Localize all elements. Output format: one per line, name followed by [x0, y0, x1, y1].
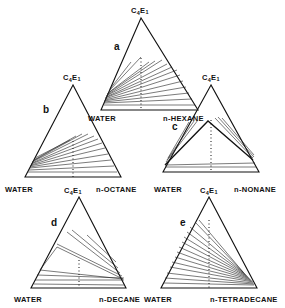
right-vertex-label-c: n-NONANE: [234, 185, 276, 194]
left-vertex-label-e: WATER: [144, 295, 172, 304]
panel-label-a: a: [114, 41, 120, 52]
apex-label-c: C4E1: [202, 73, 220, 83]
left-vertex-label-c: WATER: [154, 185, 182, 194]
right-vertex-label-d: n-DECANE: [99, 295, 140, 304]
right-vertex-label-e: n-TETRADECANE: [210, 295, 278, 304]
right-vertex-label-b: n-OCTANE: [96, 185, 137, 194]
left-vertex-label-a: WATER: [88, 114, 116, 123]
apex-label-a: C4E1: [131, 6, 149, 16]
right-vertex-label-a: n-HEXANE: [163, 114, 204, 123]
panel-label-b: b: [43, 104, 49, 115]
apex-label-e: C4E1: [200, 186, 218, 196]
left-vertex-label-b: WATER: [5, 185, 33, 194]
panel-e: e C4E1 WATER n-TETRADECANE: [144, 186, 278, 304]
apex-label-d: C4E1: [64, 186, 82, 196]
left-vertex-label-d: WATER: [14, 295, 42, 304]
panel-a: a C4E1 WATER n-HEXANE: [88, 6, 204, 123]
apex-label-b: C4E1: [63, 73, 81, 83]
ternary-phase-diagrams: b C4E1 WATER n-OCTANE c C4E1 WATER n-NON…: [0, 0, 285, 308]
tie-lines-e: [164, 220, 254, 285]
panel-label-e: e: [180, 217, 186, 228]
panel-label-d: d: [51, 217, 57, 228]
panel-d: d C4E1 WATER n-DECANE: [14, 186, 140, 304]
